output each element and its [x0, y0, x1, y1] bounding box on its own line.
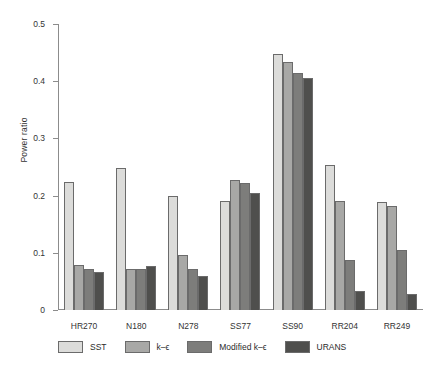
- bar: [397, 250, 407, 310]
- y-tick-label: 0: [40, 305, 45, 315]
- x-tick-label: RR204: [332, 321, 358, 331]
- bar-group: RR249: [371, 24, 423, 310]
- bar: [84, 269, 94, 310]
- y-axis-label: Power ratio: [19, 80, 29, 200]
- bar-group: N278: [162, 24, 214, 310]
- bar: [220, 201, 230, 310]
- legend-swatch: [58, 341, 83, 353]
- bar: [146, 266, 156, 310]
- y-tick-label: 0.2: [33, 191, 45, 201]
- legend-label: k–ϵ: [157, 342, 170, 352]
- x-tick-label: SS77: [230, 321, 251, 331]
- legend-item: URANS: [285, 341, 347, 353]
- y-tick-mark: 0: [53, 310, 58, 311]
- bar: [273, 54, 283, 310]
- bar: [293, 73, 303, 310]
- bar: [355, 291, 365, 310]
- y-tick-label: 0.4: [33, 76, 45, 86]
- legend-swatch: [187, 341, 212, 353]
- bar-group: SS90: [267, 24, 319, 310]
- bar: [230, 180, 240, 310]
- legend-item: Modified k–ϵ: [187, 341, 266, 353]
- legend-label: URANS: [317, 342, 347, 352]
- bar: [345, 260, 355, 310]
- bar: [178, 255, 188, 310]
- x-tick-label: HR270: [71, 321, 97, 331]
- y-tick-label: 0.5: [33, 19, 45, 29]
- x-tick-label: N278: [178, 321, 198, 331]
- bar: [240, 183, 250, 310]
- bar: [64, 182, 74, 310]
- bar-groups: HR270N180N278SS77SS90RR204RR249: [58, 24, 423, 310]
- y-tick-label: 0.3: [33, 133, 45, 143]
- legend-item: SST: [58, 341, 107, 353]
- bar: [198, 276, 208, 310]
- y-tick-label: 0.1: [33, 248, 45, 258]
- bar: [387, 206, 397, 310]
- bar: [116, 168, 126, 310]
- x-tick-label: RR249: [384, 321, 410, 331]
- legend-swatch: [125, 341, 150, 353]
- bar: [377, 202, 387, 310]
- bar-group: SS77: [214, 24, 266, 310]
- plot-area: 00.10.20.30.40.5 HR270N180N278SS77SS90RR…: [58, 24, 423, 310]
- x-tick-label: N180: [126, 321, 146, 331]
- bar: [250, 193, 260, 310]
- bar: [303, 78, 313, 310]
- bar: [325, 165, 335, 310]
- legend-label: Modified k–ϵ: [219, 342, 266, 352]
- bar: [94, 272, 104, 310]
- bar: [168, 196, 178, 310]
- bar: [335, 201, 345, 310]
- chart-legend: SSTk–ϵModified k–ϵURANS: [58, 341, 433, 353]
- legend-label: SST: [90, 342, 107, 352]
- legend-swatch: [285, 341, 310, 353]
- bar-group: RR204: [319, 24, 371, 310]
- bar: [136, 269, 146, 310]
- bar: [283, 62, 293, 310]
- bar: [188, 269, 198, 310]
- bar: [74, 265, 84, 310]
- bar-group: N180: [110, 24, 162, 310]
- x-tick-label: SS90: [282, 321, 303, 331]
- bar: [126, 269, 136, 310]
- bar: [407, 294, 417, 310]
- bar-chart-figure: Power ratio 00.10.20.30.40.5 HR270N180N2…: [0, 0, 437, 369]
- legend-item: k–ϵ: [125, 341, 170, 353]
- bar-group: HR270: [58, 24, 110, 310]
